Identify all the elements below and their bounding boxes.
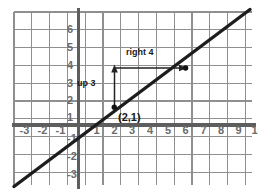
x-tick-7: 7 [200,124,206,136]
y-tick-2: 2 [67,94,73,106]
point-marker-2-1 [112,105,117,110]
x-tick-8: 8 [218,124,224,136]
x-tick-9: 9 [235,124,241,136]
y-tick-3: 3 [67,77,73,89]
run-annotation-label: right 4 [126,47,154,57]
y-tick-neg3: -3 [67,168,77,180]
x-tick-neg3: -3 [20,124,30,136]
x-tick-5: 5 [165,124,171,136]
rise-annotation-label: up 3 [77,78,96,88]
point-marker-6-4 [183,65,188,70]
x-tick-3: 3 [129,124,135,136]
x-tick-neg2: -2 [38,124,48,136]
coordinate-plane-svg: 6 5 4 3 2 1 -1 -2 -3 -3 -2 -1 1 2 3 4 5 … [0,0,261,193]
x-tick-2: 2 [111,124,117,136]
x-tick-neg1: -1 [56,124,66,136]
y-tick-1: 1 [67,111,73,123]
x-tick-6: 6 [182,124,188,136]
y-tick-6: 6 [67,23,73,35]
graph-figure: 6 5 4 3 2 1 -1 -2 -3 -3 -2 -1 1 2 3 4 5 … [0,0,261,193]
x-tick-4: 4 [147,124,154,136]
y-tick-5: 5 [67,41,73,53]
x-tick-10: 1 [251,124,257,136]
y-tick-neg2: -2 [67,150,77,162]
y-tick-4: 4 [67,59,74,71]
point-coordinate-label: (2,1) [118,111,141,123]
